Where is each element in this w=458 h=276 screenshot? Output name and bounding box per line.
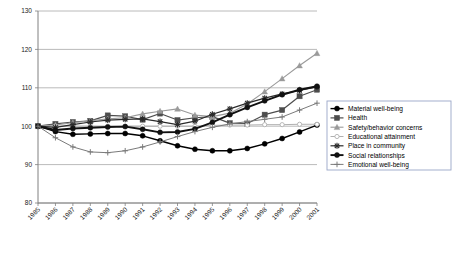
data-point [192,118,198,124]
data-point [262,141,267,146]
data-point [140,127,145,132]
x-tick-label: 1997 [235,205,250,220]
data-point [210,120,215,125]
y-axis: 8090100110120130 [21,7,38,206]
legend: Material well-beingHealthSafety/behavior… [327,101,451,170]
x-tick-label: 1988 [78,205,93,220]
data-point [280,107,285,112]
data-point [262,98,267,103]
data-point [227,148,232,153]
data-point [70,132,75,137]
data-point [105,124,110,129]
data-point [87,119,93,125]
data-point [335,106,340,111]
chart-container: 8090100110120130198519861987198819891990… [0,0,458,276]
x-tick-label: 2000 [288,205,303,220]
data-point [123,131,128,136]
legend-label: Material well-being [348,105,403,113]
data-point [227,106,233,112]
data-point [122,116,128,122]
data-point [297,87,302,92]
data-point [334,143,340,149]
data-point [245,146,250,151]
legend-label: Health [348,114,367,121]
data-point [123,124,128,129]
legend-label: Place in community [348,142,406,150]
y-tick-label: 110 [22,84,33,91]
data-point [297,94,302,99]
data-point [280,123,284,127]
data-point [105,131,110,136]
data-point [280,136,285,141]
data-point [88,131,93,136]
x-tick-label: 1995 [200,205,215,220]
data-point [158,130,163,135]
x-tick-label: 1999 [270,205,285,220]
legend-label: Safety/behavior concerns [348,124,423,132]
data-point [210,148,215,153]
x-tick-label: 1985 [26,205,41,220]
x-tick-label: 1991 [131,205,146,220]
data-point [334,115,339,120]
x-tick-label: 1990 [113,205,128,220]
legend-label: Educational attainment [348,133,415,140]
data-point [53,128,58,133]
legend-item-1[interactable]: Health [331,114,368,121]
data-point [192,147,197,152]
data-point [140,133,145,138]
data-point [227,112,232,117]
data-point [335,153,340,158]
data-point [297,129,302,134]
line-chart: 8090100110120130198519861987198819891990… [0,0,458,276]
x-tick-label: 1986 [43,205,58,220]
legend-label: Emotional well-being [348,161,409,169]
data-point [105,117,111,123]
data-point [140,116,146,122]
x-axis: 1985198619871988198919901991199219931994… [26,203,320,221]
x-tick-label: 1989 [96,205,111,220]
x-tick-label: 1998 [253,205,268,220]
x-tick-label: 1992 [148,205,163,220]
y-tick-label: 90 [25,161,33,168]
data-point [175,122,181,128]
x-tick-label: 1987 [61,205,76,220]
x-tick-label: 1994 [183,205,198,220]
data-point [263,123,267,127]
y-tick-label: 100 [21,123,32,130]
legend-label: Social relationships [348,152,406,160]
data-point [245,105,250,110]
data-point [297,122,301,126]
y-tick-label: 130 [21,7,32,14]
data-point [158,124,162,128]
data-point [175,143,180,148]
data-point [88,125,93,130]
data-point [315,122,319,126]
data-point [280,92,285,97]
x-tick-label: 1996 [218,205,233,220]
data-point [70,126,75,131]
data-point [335,134,339,138]
data-point [175,129,180,134]
y-tick-label: 120 [21,46,32,53]
data-point [209,111,215,117]
x-tick-label: 1993 [166,205,181,220]
data-point [315,84,320,89]
x-tick-label: 2001 [305,205,320,220]
y-tick-label: 80 [25,199,33,206]
data-point [157,119,163,125]
